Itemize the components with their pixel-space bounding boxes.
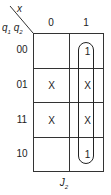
row-header-10: 10 xyxy=(14,149,30,159)
cell-10-0 xyxy=(34,137,69,171)
row-header-00: 00 xyxy=(14,45,30,55)
map-title: J2 xyxy=(56,178,72,192)
column-header-1: 1 xyxy=(80,18,92,28)
column-header-0: 0 xyxy=(45,18,57,28)
row-variables-label: q1 q2 xyxy=(2,23,23,37)
column-variable-label: x xyxy=(17,4,22,14)
kmap-grid: 1 X X X X 1 xyxy=(33,33,104,172)
cell-01-0: X xyxy=(34,68,69,102)
row-header-01: 01 xyxy=(14,80,30,90)
cell-00-0 xyxy=(34,34,69,68)
row-header-11: 11 xyxy=(14,115,30,125)
grouping-loop xyxy=(78,42,94,164)
cell-11-0: X xyxy=(34,103,69,137)
